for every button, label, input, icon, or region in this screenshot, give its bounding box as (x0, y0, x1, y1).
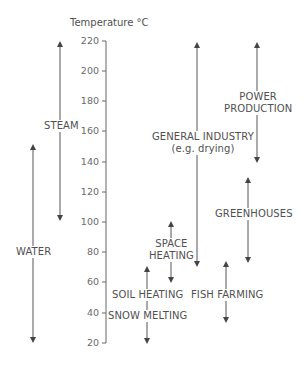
space-label-line2: HEATING (149, 250, 194, 262)
temperature-axis (102, 41, 106, 343)
greenhouses-label: GREENHOUSES (215, 208, 293, 220)
fish-farming-label: FISH FARMING (191, 289, 263, 301)
snow-melting-label: SNOW MELTING (108, 310, 187, 322)
tick-220: 220 (69, 35, 99, 46)
tick-60: 60 (69, 276, 99, 287)
space-label-line1: SPACE (149, 238, 194, 250)
tick-100: 100 (69, 216, 99, 227)
water-label: WATER (16, 246, 51, 258)
tick-140: 140 (69, 156, 99, 167)
tick-120: 120 (69, 186, 99, 197)
space-heating-label: SPACE HEATING (149, 238, 194, 262)
axis-title: Temperature °C (70, 17, 149, 28)
steam-label: STEAM (44, 120, 79, 132)
tick-40: 40 (69, 307, 99, 318)
tick-180: 180 (69, 95, 99, 106)
general-industry-label: GENERAL INDUSTRY (e.g. drying) (152, 131, 254, 155)
tick-20: 20 (69, 337, 99, 348)
tick-80: 80 (69, 246, 99, 257)
tick-200: 200 (69, 65, 99, 76)
industry-label-line1: GENERAL INDUSTRY (152, 131, 254, 143)
power-production-label: POWER PRODUCTION (224, 91, 292, 115)
soil-heating-label: SOIL HEATING (112, 289, 183, 301)
power-label-line2: PRODUCTION (224, 103, 292, 115)
power-label-line1: POWER (224, 91, 292, 103)
industry-label-line2: (e.g. drying) (152, 143, 254, 155)
